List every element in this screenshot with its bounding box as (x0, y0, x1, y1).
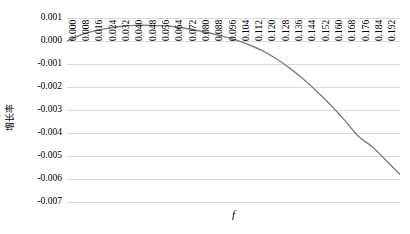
x-axis-tick-label: 0.072 (189, 41, 199, 51)
y-axis-tick-label: 0.001 (14, 13, 62, 23)
y-axis-tick-label: -0.001 (14, 59, 62, 69)
x-axis-tick-label: 0.192 (388, 41, 398, 51)
x-axis-tick-label: 0.000 (69, 41, 79, 51)
x-axis-tick-label: 0.040 (135, 41, 145, 51)
y-axis-tick-label: -0.004 (14, 128, 62, 138)
x-axis-tick-label: 0.080 (202, 41, 212, 51)
x-axis-title: f (67, 208, 400, 220)
growth-rate-chart: 增长率 0.0010.000-0.001-0.002-0.003-0.004-0… (0, 0, 410, 234)
y-axis-tick-label: -0.003 (14, 105, 62, 115)
x-axis-tick-label: 0.160 (335, 41, 345, 51)
y-axis-tick-labels: 0.0010.000-0.001-0.002-0.003-0.004-0.005… (14, 0, 62, 234)
x-axis-tick-label: 0.056 (162, 41, 172, 51)
y-axis-tick-label: -0.006 (14, 174, 62, 184)
x-axis-tick-label: 0.176 (362, 41, 372, 51)
x-axis-tick-label: 0.032 (122, 41, 132, 51)
x-axis-tick-label: 0.136 (295, 41, 305, 51)
x-axis-tick-label: 0.096 (229, 41, 239, 51)
x-axis-tick-label: 0.152 (322, 41, 332, 51)
y-axis-tick-label: -0.005 (14, 151, 62, 161)
x-axis-tick-label: 0.064 (175, 41, 185, 51)
x-axis-tick-label: 0.024 (109, 41, 119, 51)
y-axis-tick-label: -0.007 (14, 197, 62, 207)
x-axis-tick-label: 0.184 (375, 41, 385, 51)
x-axis-tick-label: 0.088 (215, 41, 225, 51)
x-axis-tick-label: 0.016 (95, 41, 105, 51)
x-axis-tick-label: 0.048 (149, 41, 159, 51)
x-axis-tick-label: 0.144 (308, 41, 318, 51)
x-axis-tick-label: 0.120 (268, 41, 278, 51)
x-axis-tick-label: 0.128 (282, 41, 292, 51)
x-axis-tick-label: 0.168 (348, 41, 358, 51)
x-axis-tick-label: 0.008 (82, 41, 92, 51)
x-axis-tick-label: 0.112 (255, 41, 265, 51)
y-axis-tick-label: 0.000 (14, 36, 62, 46)
y-axis-tick-label: -0.002 (14, 82, 62, 92)
x-axis-tick-label: 0.104 (242, 41, 252, 51)
x-axis-tick-labels: 0.0000.0080.0160.0240.0320.0400.0480.056… (67, 0, 400, 234)
